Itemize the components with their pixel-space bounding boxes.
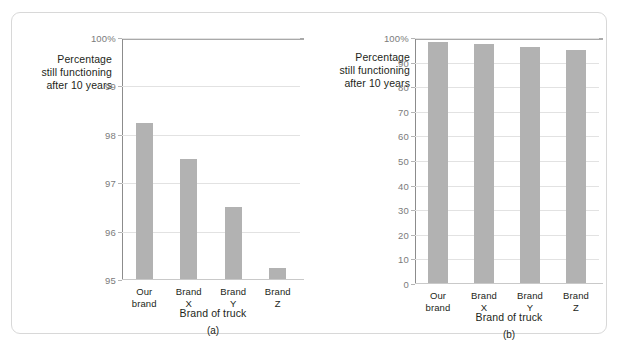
bar	[269, 268, 286, 279]
category-label: BrandZ	[553, 290, 599, 314]
y-tick-label: 96	[105, 226, 116, 237]
y-tick-label: 30	[398, 205, 409, 216]
category-label-line: X	[167, 298, 212, 310]
x-axis-baseline	[122, 279, 304, 280]
y-axis-label-line: Percentage	[20, 53, 112, 66]
y-tick-mark	[411, 259, 415, 260]
y-tick-label: 95	[105, 275, 116, 286]
bar	[225, 207, 242, 279]
y-tick-label: 10	[398, 254, 409, 265]
y-axis-label-line: Percentage	[314, 51, 410, 64]
category-label: Ourbrand	[415, 290, 461, 314]
panel-caption-a: (a)	[122, 325, 304, 336]
y-tick-mark	[118, 38, 122, 39]
y-tick-label: 100%	[91, 33, 116, 44]
category-label: BrandX	[461, 290, 507, 314]
y-tick-mark	[118, 280, 122, 281]
y-tick-label: 70	[398, 106, 409, 117]
bar	[428, 42, 448, 283]
y-tick-mark	[411, 161, 415, 162]
y-tick-mark	[118, 86, 122, 87]
category-label-line: brand	[122, 298, 167, 310]
y-tick-label: 97	[105, 178, 116, 189]
panel-caption-b: (b)	[415, 329, 603, 340]
bar	[136, 123, 153, 279]
y-tick-mark	[411, 136, 415, 137]
category-label-line: Z	[553, 302, 599, 314]
y-tick-label: 90	[398, 57, 409, 68]
y-axis-label-line: still functioning	[314, 64, 410, 77]
y-tick-mark	[411, 210, 415, 211]
category-label-line: X	[461, 302, 507, 314]
category-label-line: Our	[415, 290, 461, 302]
y-tick-mark	[411, 186, 415, 187]
category-label-line: Brand	[167, 286, 212, 298]
y-tick-label: 99	[105, 81, 116, 92]
y-tick-label: 50	[398, 156, 409, 167]
plot-inner-a: 9596979899100%	[122, 38, 300, 280]
y-tick-label: 80	[398, 82, 409, 93]
category-label: BrandY	[507, 290, 553, 314]
plot-inner-b: 0102030405060708090100%	[415, 38, 599, 284]
y-axis-label-b: Percentage still functioning after 10 ye…	[314, 51, 410, 91]
y-tick-label: 98	[105, 129, 116, 140]
y-tick-label: 100%	[384, 33, 409, 44]
y-axis-label-a: Percentage still functioning after 10 ye…	[20, 53, 112, 93]
y-tick-mark	[118, 183, 122, 184]
category-label-line: Brand	[461, 290, 507, 302]
y-axis-spine	[122, 38, 123, 280]
plot-area-a: 9596979899100%	[122, 38, 300, 280]
y-tick-mark	[411, 63, 415, 64]
y-tick-label: 40	[398, 180, 409, 191]
y-tick-mark	[411, 235, 415, 236]
category-label-line: Brand	[211, 286, 256, 298]
bar	[520, 47, 540, 283]
bar	[566, 50, 586, 283]
y-axis-label-line: after 10 years	[20, 79, 112, 92]
y-tick-mark	[118, 232, 122, 233]
category-label-line: brand	[415, 302, 461, 314]
y-tick-mark	[411, 112, 415, 113]
category-label-line: Y	[211, 298, 256, 310]
y-axis-label-line: after 10 years	[314, 77, 410, 90]
y-tick-mark	[118, 135, 122, 136]
x-axis-baseline	[415, 283, 603, 284]
gridline	[415, 38, 599, 39]
bar	[474, 44, 494, 283]
category-label-line: Our	[122, 286, 167, 298]
chart-panel-b: Percentage still functioning after 10 ye…	[310, 13, 608, 335]
y-tick-label: 20	[398, 229, 409, 240]
gridline	[122, 38, 300, 39]
plot-area-b: 0102030405060708090100%	[415, 38, 599, 284]
category-label-line: Brand	[256, 286, 301, 298]
y-tick-mark	[411, 284, 415, 285]
chart-panel-a: Percentage still functioning after 10 ye…	[12, 13, 310, 335]
y-tick-mark	[411, 87, 415, 88]
y-axis-label-line: still functioning	[20, 66, 112, 79]
category-label: Ourbrand	[122, 286, 167, 310]
category-label-line: Brand	[507, 290, 553, 302]
y-tick-label: 0	[404, 279, 409, 290]
category-label-line: Y	[507, 302, 553, 314]
y-tick-label: 60	[398, 131, 409, 142]
category-label: BrandX	[167, 286, 212, 310]
gridline	[122, 86, 300, 87]
category-label: BrandZ	[256, 286, 301, 310]
figure-frame: Percentage still functioning after 10 ye…	[11, 12, 607, 334]
category-label: BrandY	[211, 286, 256, 310]
category-label-line: Z	[256, 298, 301, 310]
y-tick-mark	[411, 38, 415, 39]
category-label-line: Brand	[553, 290, 599, 302]
bar	[180, 159, 197, 279]
